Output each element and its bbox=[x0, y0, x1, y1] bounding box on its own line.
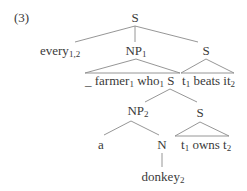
s-lower-yield: t1 owns t2 bbox=[181, 138, 231, 151]
it-index: 2 bbox=[231, 79, 236, 89]
branch-np2-n bbox=[131, 121, 159, 135]
gap-text: _ bbox=[85, 73, 92, 88]
farmer-index: 1 bbox=[129, 79, 134, 89]
np1-text: NP bbox=[125, 43, 142, 58]
owns-text: owns bbox=[192, 137, 219, 152]
it-text: it bbox=[223, 73, 230, 88]
branch-s-np2 bbox=[145, 89, 170, 102]
triangle-s-right bbox=[181, 59, 234, 73]
node-det-a: a bbox=[98, 138, 104, 151]
node-donkey: donkey2 bbox=[142, 170, 185, 183]
branch-np2-a bbox=[104, 121, 131, 135]
node-s-right: S bbox=[202, 44, 209, 57]
farmer-text: farmer bbox=[95, 73, 130, 88]
every-text: every bbox=[40, 43, 69, 58]
triangle-np1 bbox=[85, 59, 180, 73]
node-root-s: S bbox=[131, 11, 138, 24]
node-s-relative: S bbox=[167, 73, 174, 88]
who-text: who bbox=[137, 73, 159, 88]
donkey-index: 2 bbox=[180, 175, 185, 185]
branch-root-s bbox=[135, 26, 198, 42]
beats-text: beats bbox=[193, 73, 220, 88]
node-every: every1,2 bbox=[40, 44, 80, 57]
branch-s-slower bbox=[170, 89, 197, 102]
node-s-lower: S bbox=[196, 106, 203, 119]
donkey-text: donkey bbox=[142, 169, 180, 184]
every-index: 1,2 bbox=[69, 49, 80, 59]
who-index: 1 bbox=[160, 79, 165, 89]
branch-root-every bbox=[75, 26, 135, 42]
tree-branches bbox=[0, 0, 247, 191]
t2-index: 2 bbox=[227, 143, 232, 153]
np2-text: NP bbox=[127, 103, 144, 118]
s-right-yield: t1 beats it2 bbox=[182, 74, 235, 87]
example-number: (3) bbox=[14, 11, 29, 24]
node-n: N bbox=[157, 138, 166, 151]
syntax-tree-diagram: (3) S every1,2 NP1 S _ farmer1 who1 S t1… bbox=[0, 0, 247, 191]
node-np1: NP1 bbox=[125, 44, 146, 57]
triangle-s-lower bbox=[175, 122, 229, 136]
t-index: 1 bbox=[186, 79, 191, 89]
node-np2: NP2 bbox=[127, 104, 148, 117]
t1-index: 1 bbox=[185, 143, 190, 153]
np1-index: 1 bbox=[142, 49, 147, 59]
np1-yield: _ farmer1 who1 S bbox=[85, 74, 175, 87]
np2-index: 2 bbox=[144, 109, 149, 119]
